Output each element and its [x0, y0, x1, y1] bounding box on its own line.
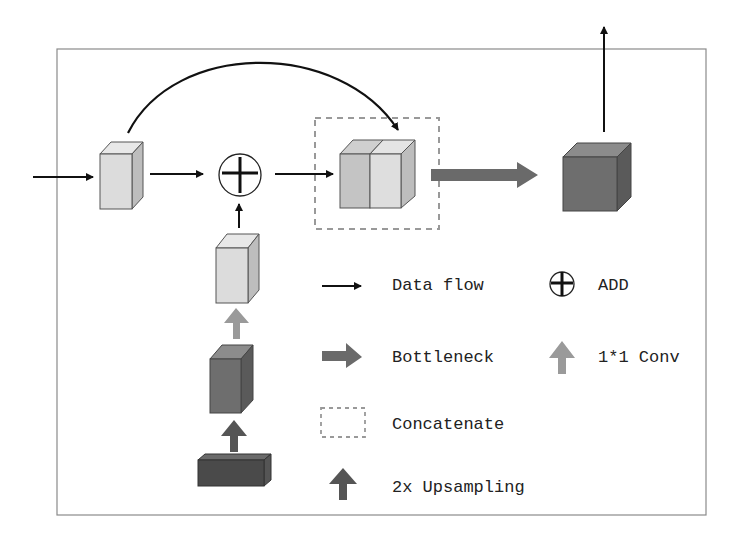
legend-add-icon [550, 272, 574, 296]
legend-concatenate-icon [321, 408, 365, 437]
legend-add-label: ADD [598, 276, 629, 295]
legend-bottleneck-label: Bottleneck [392, 348, 494, 367]
diagram-canvas: Data flow ADD Bottleneck 1*1 Conv Concat… [0, 0, 738, 545]
add-icon [219, 154, 261, 196]
skip-connection-arrow [128, 63, 398, 133]
legend-bottleneck-icon [322, 343, 362, 368]
legend-upsampling-label: 2x Upsampling [392, 478, 525, 497]
low-res-feature-block [198, 454, 271, 486]
legend-conv-icon [549, 341, 575, 374]
legend-data-flow-label: Data flow [392, 276, 485, 295]
conv-feature-cube [216, 234, 259, 303]
legend-conv-label: 1*1 Conv [598, 348, 680, 367]
legend-concatenate-label: Concatenate [392, 415, 504, 434]
legend-upsample-icon [329, 468, 357, 500]
output-feature-cube [563, 143, 631, 211]
concatenated-feature-cube [340, 140, 415, 208]
upsample-arrow [221, 420, 247, 452]
bottleneck-arrow [431, 162, 538, 188]
legend: Data flow ADD Bottleneck 1*1 Conv Concat… [321, 272, 680, 500]
input-feature-cube [100, 142, 143, 209]
conv-arrow [224, 308, 249, 339]
upsampled-feature-cube [210, 345, 253, 413]
